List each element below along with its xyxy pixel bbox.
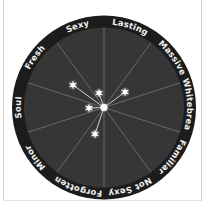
radial-diagram: SexyLastingMassiveWhitebreadFamiliarNot … xyxy=(0,0,204,212)
center-hub xyxy=(101,104,108,111)
